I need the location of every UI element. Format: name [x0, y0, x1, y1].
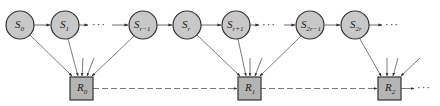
ellipsis-3: ···	[385, 18, 399, 30]
ellipsis-2: ···	[262, 18, 276, 30]
state-node-Sr: Sr	[173, 11, 201, 39]
state-node-S2r: S2r	[341, 11, 369, 39]
state-reward-edges	[30, 35, 420, 76]
state-node-S0: S0	[6, 11, 34, 39]
reward-node-R1: R1	[238, 77, 261, 100]
reward-node-R0: R0	[70, 77, 93, 100]
reward-node-R2: R2	[378, 77, 401, 100]
state-node-S1: S1	[51, 11, 79, 39]
markov-reward-diagram: ··· ··· ··· ··· S0S1Sr−1SrSr+1S2r−1S2r R…	[0, 0, 440, 106]
ellipsis-1: ···	[92, 18, 106, 30]
state-node-Sr-1: Sr−1	[129, 11, 157, 39]
state-nodes: S0S1Sr−1SrSr+1S2r−1S2r	[6, 11, 369, 39]
state-node-Sr+1: Sr+1	[222, 11, 250, 39]
ellipsis-4: ···	[417, 81, 431, 93]
state-node-S2r-1: S2r−1	[296, 11, 324, 39]
